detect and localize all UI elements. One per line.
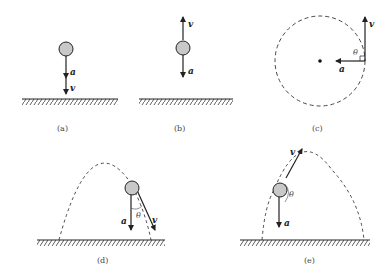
- panel-e: v a θ (e): [240, 147, 370, 265]
- caption-d: (d): [97, 256, 108, 265]
- motion-diagrams: a v (a) v a (b) v a θ (c) a v θ (: [0, 0, 390, 275]
- ground-hatch: [139, 99, 233, 105]
- label-theta: θ: [136, 211, 141, 220]
- trajectory: [59, 163, 151, 240]
- ball: [176, 41, 190, 55]
- caption-e: (e): [304, 256, 315, 265]
- label-a: a: [339, 64, 345, 74]
- ground-hatch: [37, 240, 165, 246]
- label-a: a: [70, 67, 76, 77]
- angle-arc: [131, 206, 142, 209]
- label-v: v: [152, 215, 158, 225]
- label-v: v: [369, 19, 375, 29]
- panel-c: v a θ (c): [275, 16, 375, 133]
- label-a: a: [188, 66, 194, 76]
- ground-hatch: [240, 240, 370, 246]
- panel-d: a v θ (d): [37, 163, 165, 265]
- right-angle-mark: [360, 56, 365, 61]
- label-a: a: [121, 216, 127, 226]
- diagram-canvas: a v (a) v a (b) v a θ (c) a v θ (: [0, 0, 390, 275]
- caption-c: (c): [312, 124, 323, 133]
- caption-b: (b): [174, 124, 185, 133]
- label-v: v: [290, 147, 296, 157]
- panel-b: v a (b): [139, 17, 233, 133]
- ball: [273, 183, 287, 197]
- ground-hatch: [22, 99, 118, 105]
- caption-a: (a): [57, 124, 68, 133]
- label-v: v: [188, 19, 194, 29]
- panel-a: a v (a): [22, 42, 118, 133]
- label-theta: θ: [289, 190, 294, 199]
- label-a: a: [284, 218, 290, 228]
- label-theta: θ: [353, 48, 358, 57]
- center-point: [318, 59, 322, 63]
- ball: [59, 42, 73, 56]
- ball: [125, 181, 139, 195]
- label-v: v: [70, 83, 76, 93]
